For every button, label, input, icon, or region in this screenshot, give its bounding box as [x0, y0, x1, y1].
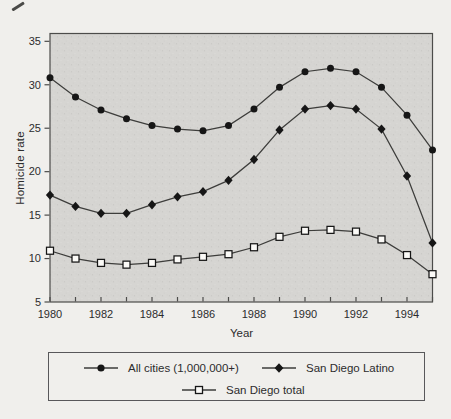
- data-point: [174, 126, 181, 133]
- data-point: [174, 256, 181, 263]
- y-tick-label: 5: [35, 296, 41, 308]
- data-point: [404, 252, 411, 259]
- data-point: [302, 68, 309, 75]
- data-point: [429, 146, 436, 153]
- x-tick-label: 1992: [344, 308, 368, 320]
- data-point: [327, 65, 334, 72]
- data-point: [98, 259, 105, 266]
- data-point: [200, 127, 207, 134]
- data-point: [200, 253, 207, 260]
- legend-item-san-diego-total: San Diego total: [181, 384, 305, 396]
- data-point: [378, 84, 385, 91]
- data-point: [251, 106, 258, 113]
- data-point: [404, 112, 411, 119]
- data-point: [353, 68, 360, 75]
- data-point: [72, 93, 79, 100]
- y-tick-label: 15: [29, 209, 41, 221]
- data-point: [327, 226, 334, 233]
- x-tick-label: 1984: [140, 308, 164, 320]
- legend-label: All cities (1,000,000+): [128, 362, 239, 374]
- y-tick-label: 25: [29, 122, 41, 134]
- data-point: [276, 233, 283, 240]
- legend-marker-filled-circle-icon: [83, 362, 119, 374]
- data-point: [353, 228, 360, 235]
- y-tick-label: 10: [29, 252, 41, 264]
- legend-box: All cities (1,000,000+) San Diego Latino…: [48, 352, 425, 401]
- x-axis-label: Year: [50, 327, 433, 339]
- data-point: [302, 227, 309, 234]
- data-point: [225, 251, 232, 258]
- legend-marker-filled-diamond-icon: [261, 362, 297, 374]
- data-point: [123, 261, 130, 268]
- x-tick-label: 1980: [38, 308, 62, 320]
- data-point: [123, 115, 130, 122]
- data-point: [251, 244, 258, 251]
- x-tick-label: 1990: [293, 308, 317, 320]
- y-tick-label: 30: [29, 79, 41, 91]
- data-point: [72, 255, 79, 262]
- legend-item-all-cities: All cities (1,000,000+): [83, 362, 239, 374]
- plot-area: [50, 34, 433, 303]
- data-point: [149, 122, 156, 129]
- legend-label: San Diego total: [226, 384, 305, 396]
- data-point: [225, 122, 232, 129]
- data-point: [47, 247, 54, 254]
- data-point: [378, 236, 385, 243]
- y-tick-label: 35: [29, 35, 41, 47]
- data-point: [47, 74, 54, 81]
- legend-marker-open-square-icon: [181, 384, 217, 396]
- y-tick-label: 20: [29, 165, 41, 177]
- legend-item-san-diego-latino: San Diego Latino: [261, 362, 394, 374]
- homicide-rate-figure: 5101520253035198019821984198619881990199…: [0, 0, 451, 419]
- data-point: [276, 84, 283, 91]
- x-tick-label: 1994: [395, 308, 419, 320]
- y-axis-label: Homicide rate: [14, 114, 26, 222]
- legend-label: San Diego Latino: [306, 362, 394, 374]
- x-tick-label: 1988: [242, 308, 266, 320]
- data-point: [429, 271, 436, 278]
- x-tick-label: 1986: [191, 308, 215, 320]
- data-point: [98, 106, 105, 113]
- data-point: [149, 259, 156, 266]
- x-tick-label: 1982: [89, 308, 113, 320]
